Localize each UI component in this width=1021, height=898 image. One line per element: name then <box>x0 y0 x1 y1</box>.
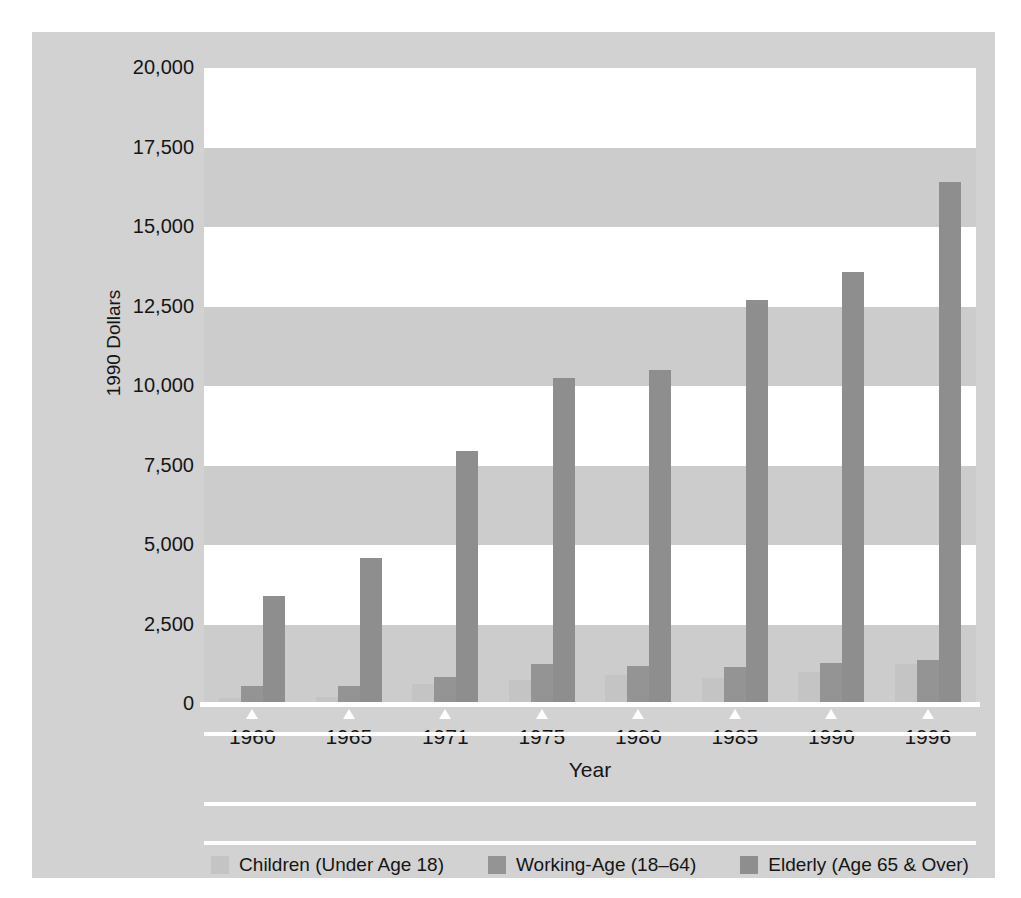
bar <box>263 596 285 704</box>
x-axis-ticks: 19601965197119751980198519901996 <box>204 707 976 753</box>
y-tick-label: 15,000 <box>44 216 194 236</box>
bar <box>842 272 864 704</box>
y-tick-label: 0 <box>44 693 194 713</box>
y-axis-ticks: 02,5005,0007,50010,00012,50015,00017,500… <box>32 68 194 704</box>
legend-item-label: Working-Age (18–64) <box>516 854 696 876</box>
bar-group <box>412 68 478 704</box>
x-tick-marker-icon <box>825 709 837 719</box>
bar <box>649 370 671 704</box>
x-tick-marker-icon <box>246 709 258 719</box>
x-tick-marker-icon <box>439 709 451 719</box>
x-tick-marker-icon <box>343 709 355 719</box>
y-tick-label: 5,000 <box>44 534 194 554</box>
bar <box>434 677 456 704</box>
bar-group <box>895 68 961 704</box>
divider-rule-middle <box>204 802 976 806</box>
bar <box>605 675 627 704</box>
legend-swatch-icon <box>211 856 229 874</box>
divider-rule-top <box>204 732 976 736</box>
chart-legend: Children (Under Age 18)Working-Age (18–6… <box>204 850 976 880</box>
bar-group <box>509 68 575 704</box>
bar <box>798 672 820 704</box>
bar-group <box>219 68 285 704</box>
bar <box>820 663 842 704</box>
bar <box>895 664 917 704</box>
legend-item-label: Elderly (Age 65 & Over) <box>768 854 969 876</box>
bar <box>456 451 478 704</box>
legend-item[interactable]: Children (Under Age 18) <box>211 854 444 876</box>
x-tick-marker-icon <box>729 709 741 719</box>
y-tick-label: 2,500 <box>44 614 194 634</box>
bar <box>917 660 939 704</box>
bar <box>746 300 768 704</box>
bar <box>531 664 553 704</box>
y-tick-label: 10,000 <box>44 375 194 395</box>
x-tick-marker-icon <box>536 709 548 719</box>
bar-series-container <box>204 68 976 704</box>
bar <box>724 667 746 704</box>
legend-swatch-icon <box>740 856 758 874</box>
bar <box>627 666 649 704</box>
bar <box>702 678 724 704</box>
plot-area <box>204 68 976 704</box>
bar <box>553 378 575 704</box>
y-tick-label: 20,000 <box>44 57 194 77</box>
figure-canvas: 1990 Dollars 02,5005,0007,50010,00012,50… <box>0 0 1021 898</box>
chart-panel: 1990 Dollars 02,5005,0007,50010,00012,50… <box>32 32 995 878</box>
bar-group <box>798 68 864 704</box>
bar-group <box>605 68 671 704</box>
y-tick-label: 7,500 <box>44 455 194 475</box>
legend-item[interactable]: Elderly (Age 65 & Over) <box>740 854 969 876</box>
bar <box>360 558 382 704</box>
legend-swatch-icon <box>488 856 506 874</box>
bar <box>509 680 531 704</box>
bar-group <box>702 68 768 704</box>
x-tick-label: 1996 <box>868 725 988 749</box>
legend-item-label: Children (Under Age 18) <box>239 854 444 876</box>
bar <box>939 182 961 704</box>
bar-group <box>316 68 382 704</box>
legend-item[interactable]: Working-Age (18–64) <box>488 854 696 876</box>
y-tick-label: 17,500 <box>44 137 194 157</box>
divider-rule-bottom <box>204 841 976 845</box>
x-tick-marker-icon <box>632 709 644 719</box>
y-tick-label: 12,500 <box>44 296 194 316</box>
x-axis-title: Year <box>204 758 976 782</box>
x-tick-marker-icon <box>922 709 934 719</box>
